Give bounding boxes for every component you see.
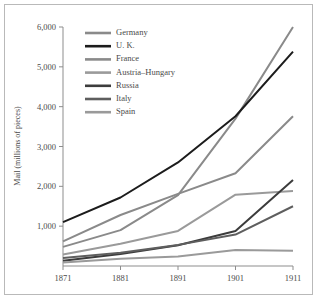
x-tick-label: 1901 bbox=[227, 273, 244, 283]
x-tick-label: 1891 bbox=[170, 273, 187, 283]
legend-label: Spain bbox=[116, 106, 136, 116]
y-tick-label: 5,000 bbox=[37, 62, 56, 72]
legend-label: France bbox=[116, 53, 139, 63]
series-line-u-k bbox=[63, 52, 293, 222]
legend-label: Austria–Hungary bbox=[116, 67, 176, 77]
x-tick-label: 1881 bbox=[112, 273, 129, 283]
x-axis-ticks: 18711881189119011911 bbox=[55, 266, 302, 283]
data-lines bbox=[63, 27, 293, 262]
y-axis-ticks: 1,0002,0003,0004,0005,0006,000 bbox=[37, 22, 63, 231]
y-tick-label: 1,000 bbox=[37, 221, 56, 231]
y-tick-label: 6,000 bbox=[37, 22, 56, 32]
legend-label: U. K. bbox=[116, 40, 135, 50]
y-tick-label: 4,000 bbox=[37, 102, 56, 112]
legend-label: Italy bbox=[116, 93, 132, 103]
x-tick-label: 1911 bbox=[285, 273, 302, 283]
line-chart: 1,0002,0003,0004,0005,0006,000 187118811… bbox=[0, 0, 319, 301]
legend-label: Germany bbox=[116, 27, 148, 37]
y-tick-label: 2,000 bbox=[37, 181, 56, 191]
y-tick-label: 3,000 bbox=[37, 142, 56, 152]
chart-legend: GermanyU. K.FranceAustria–HungaryRussiaI… bbox=[85, 27, 176, 116]
legend-label: Russia bbox=[116, 80, 139, 90]
y-axis-title: Mail (millions of pieces) bbox=[13, 106, 22, 186]
x-tick-label: 1871 bbox=[55, 273, 72, 283]
